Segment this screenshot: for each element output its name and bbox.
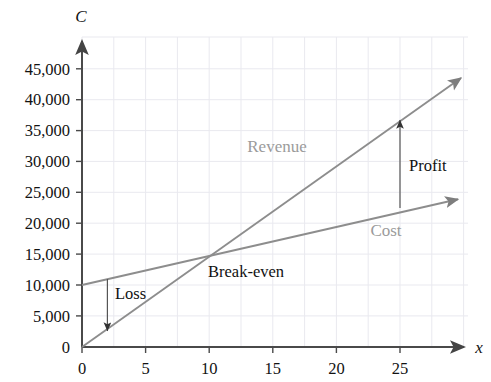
- y-tick-label: 0: [62, 338, 70, 357]
- x-tick-label: 5: [141, 359, 149, 378]
- chart-background: [0, 0, 491, 382]
- x-axis-label: x: [474, 338, 483, 357]
- revenue-label: Revenue: [247, 137, 306, 156]
- break-even-label: Break-even: [208, 262, 284, 281]
- x-tick-label: 25: [392, 359, 409, 378]
- y-tick-label: 45,000: [25, 60, 70, 79]
- y-tick-label: 30,000: [25, 152, 70, 171]
- break-even-chart: C x 45,000 40,000 35,000 30,000 25,000 2…: [0, 0, 491, 382]
- y-axis-label: C: [75, 7, 87, 26]
- cost-label: Cost: [370, 221, 401, 240]
- chart-canvas: C x 45,000 40,000 35,000 30,000 25,000 2…: [0, 0, 491, 382]
- y-tick-label: 15,000: [25, 245, 70, 264]
- profit-label: Profit: [409, 156, 447, 175]
- y-tick-label: 35,000: [25, 121, 70, 140]
- y-tick-label: 10,000: [25, 276, 70, 295]
- y-tick-label: 40,000: [25, 90, 70, 109]
- y-tick-label: 25,000: [25, 183, 70, 202]
- x-tick-label: 10: [201, 359, 218, 378]
- y-tick-label: 20,000: [25, 214, 70, 233]
- loss-label: Loss: [115, 284, 146, 303]
- x-tick-label: 20: [328, 359, 345, 378]
- x-tick-label: 0: [78, 359, 86, 378]
- y-tick-label: 5,000: [33, 307, 70, 326]
- x-tick-label: 15: [265, 359, 282, 378]
